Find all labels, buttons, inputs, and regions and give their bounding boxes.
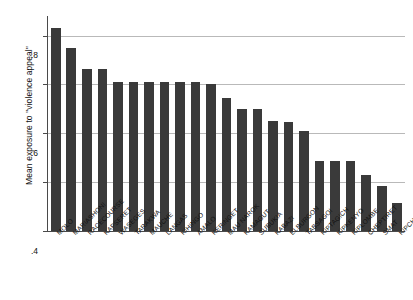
bar [191, 82, 201, 231]
bar [175, 82, 185, 231]
bars-layer [48, 16, 405, 231]
y-axis-title: Mean exposure to "violence appeal" [20, 0, 38, 231]
y-tick-label: .8 [31, 51, 38, 60]
bar [51, 28, 61, 231]
bar [144, 82, 154, 231]
bar [66, 48, 76, 231]
x-axis-labels: MOLOMARIASHONIRACECOURSEKAPSERETWASEGEST… [47, 232, 413, 300]
y-tick-mark: .6 [43, 84, 47, 85]
plot-area: 0.2.4.6.8 [47, 16, 405, 231]
bar [206, 84, 216, 231]
y-tick-label: .4 [31, 246, 38, 255]
y-tick-mark: .8 [43, 36, 47, 37]
y-tick-mark: .2 [43, 182, 47, 183]
bar [82, 69, 92, 231]
bar-chart: Mean exposure to "violence appeal" 0.2.4… [0, 0, 413, 300]
bar [160, 82, 170, 231]
y-tick-label: .6 [31, 149, 38, 158]
y-tick-mark: .4 [43, 133, 47, 134]
